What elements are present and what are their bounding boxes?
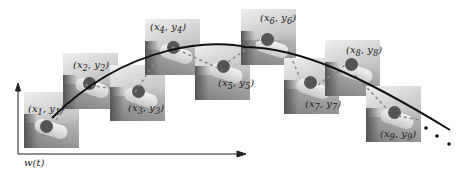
- patch-label-4: (x4, y4): [150, 21, 186, 35]
- patch-label-7: (x7, y7): [305, 98, 341, 112]
- patch-label-5: (x5, y5): [218, 77, 254, 91]
- trajectory-diagram: (x1, y1) (x2, y2) (x3, y3) (x4, y4) (x5,…: [0, 0, 470, 178]
- patch-label-2: (x2, y2): [73, 59, 109, 73]
- axis-label: w(t): [24, 157, 44, 168]
- patch-label-3: (x3, y3): [128, 102, 164, 116]
- patch-label-6: (x6, y6): [260, 12, 296, 26]
- axes: [16, 83, 247, 157]
- patch-label-1: (x1, y1): [28, 103, 64, 117]
- patch-label-8: (x8, y8): [346, 44, 382, 58]
- patch-label-9: (x9, y9): [380, 128, 416, 142]
